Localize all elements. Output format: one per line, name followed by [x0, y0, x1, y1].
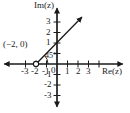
- diagram-canvas: [0, 0, 130, 113]
- y-tick-label--3: -3: [44, 91, 52, 100]
- complex-plane-diagram: Im(z) Re(z) -3 -2 -1 1 2 3 0 3 2 1 -1 -2…: [0, 0, 130, 113]
- y-tick-label-3: 3: [46, 17, 51, 26]
- y-tick-label--2: -2: [44, 80, 52, 89]
- origin-label: 0: [51, 66, 56, 75]
- x-tick-label--3: -3: [21, 67, 29, 76]
- x-tick-label--2: -2: [31, 67, 39, 76]
- point-annotation-label: (−2, 0): [3, 40, 28, 49]
- y-tick-label-2: 2: [46, 28, 51, 37]
- angle-annotation-label: 45°: [45, 52, 56, 60]
- x-tick-label-3: 3: [86, 67, 91, 76]
- imaginary-axis-label: Im(z): [34, 1, 54, 10]
- y-tick-label--1: -1: [44, 70, 52, 79]
- x-tick-label-2: 2: [76, 67, 81, 76]
- x-tick-label-1: 1: [65, 67, 70, 76]
- real-axis-label: Re(z): [102, 67, 122, 76]
- y-tick-label-1: 1: [46, 38, 51, 47]
